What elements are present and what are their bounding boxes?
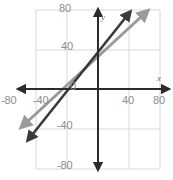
x-tick-label-neg80: -80 <box>1 95 16 106</box>
x-axis-label: x <box>157 74 161 83</box>
x-tick-label-40: 40 <box>122 95 134 106</box>
x-tick-label-80: 80 <box>153 95 165 106</box>
x-tick-label-neg40: -40 <box>33 95 48 106</box>
y-tick-label-80: 80 <box>59 3 71 14</box>
y-tick-label-40: 40 <box>61 41 73 52</box>
origin-label: 0 <box>70 81 76 92</box>
y-axis-label: y <box>101 13 105 22</box>
y-tick-label-neg80: -80 <box>57 160 72 171</box>
series-dark-line <box>32 17 126 135</box>
coordinate-plane-chart: 80 40 0 -40 -80 -80 -40 40 80 y x <box>0 0 173 180</box>
y-tick-label-neg40: -40 <box>57 120 72 131</box>
plot-area <box>0 0 173 180</box>
